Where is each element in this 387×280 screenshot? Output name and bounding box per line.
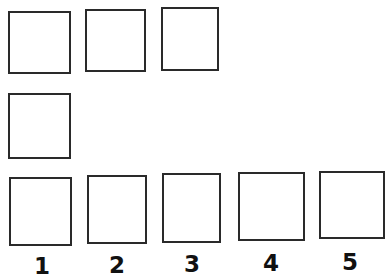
- middle-row-square-1: [8, 93, 71, 159]
- label-1: 1: [34, 255, 50, 278]
- top-row-square-2: [85, 9, 146, 72]
- label-3: 3: [184, 253, 200, 276]
- label-2: 2: [109, 254, 125, 277]
- bottom-row-square-3: [162, 173, 221, 243]
- top-row-square-1: [8, 11, 71, 74]
- top-row-square-3: [161, 7, 219, 71]
- label-5: 5: [342, 251, 358, 274]
- bottom-row-square-4: [238, 172, 305, 241]
- bottom-row-square-5: [319, 171, 385, 239]
- bottom-row-square-1: [9, 177, 72, 246]
- label-4: 4: [263, 252, 279, 275]
- bottom-row-square-2: [87, 175, 147, 244]
